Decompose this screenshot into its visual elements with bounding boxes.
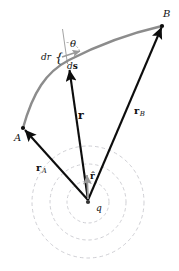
point-A-marker bbox=[21, 126, 25, 130]
physics-diagram-figure: A B q θ dr { ds r rA rB r̂ bbox=[0, 0, 179, 271]
angle-theta-label: θ bbox=[70, 39, 76, 49]
r-hat-unit-vector-arrow bbox=[87, 175, 88, 199]
point-B-label: B bbox=[163, 9, 170, 19]
point-B-marker bbox=[160, 24, 164, 28]
rB-vector-arrow bbox=[88, 28, 162, 201]
r-hat-unit-vector-label: r̂ bbox=[90, 172, 95, 181]
charge-q-marker bbox=[86, 200, 90, 204]
rB-subscript: B bbox=[139, 110, 145, 118]
rB-vector-label: rB bbox=[134, 106, 145, 118]
r-vector-arrow bbox=[70, 70, 89, 200]
diagram-canvas bbox=[0, 0, 179, 271]
ds-label: ds bbox=[67, 62, 78, 71]
point-A-label: A bbox=[14, 133, 21, 143]
rA-vector-label: rA bbox=[36, 163, 47, 175]
dr-label: dr bbox=[41, 53, 51, 62]
ds-bold-s: s bbox=[73, 61, 78, 71]
charge-q-label: q bbox=[96, 204, 102, 213]
rA-subscript: A bbox=[41, 167, 46, 175]
radial-guide-line bbox=[63, 29, 68, 64]
r-vector-label: r bbox=[78, 110, 84, 121]
